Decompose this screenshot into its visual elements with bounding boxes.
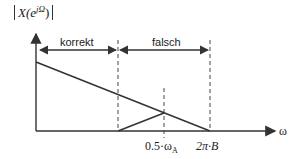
ylabel-main: X(e bbox=[18, 5, 36, 20]
spectrum-line bbox=[36, 62, 210, 131]
region-label-korrekt: korrekt bbox=[60, 36, 94, 48]
tick-half-sub: A bbox=[172, 146, 178, 155]
ylabel-close: ) bbox=[45, 5, 49, 20]
ylabel-sup: jΩ bbox=[36, 4, 45, 14]
spectrum-diagram bbox=[0, 0, 300, 159]
x-axis-label: ω bbox=[279, 124, 287, 139]
region-label-falsch: falsch bbox=[152, 36, 181, 48]
tick-label-bandwidth: 2π·B bbox=[196, 139, 218, 154]
tick-label-half-sampling: 0.5·ωA bbox=[145, 139, 178, 155]
alias-spectrum-line bbox=[118, 113, 164, 131]
y-axis-label: X(ejΩ) bbox=[14, 4, 53, 21]
tick-half-text: 0.5·ω bbox=[145, 139, 172, 153]
